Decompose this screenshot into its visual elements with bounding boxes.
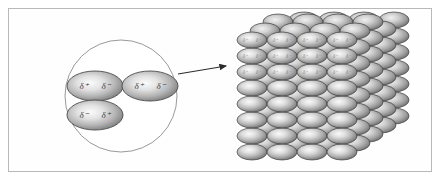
lattice-ellipse — [237, 32, 267, 48]
lattice-molecule — [237, 80, 267, 96]
lattice-molecule: δ⁺δ⁻ — [267, 32, 297, 48]
lattice-molecule: δ⁺δ⁻ — [327, 64, 357, 80]
lattice-ellipse — [297, 48, 327, 64]
lattice-molecule — [267, 80, 297, 96]
molecule-top-right-right-charge: δ⁻ — [156, 81, 166, 91]
lattice-molecule — [327, 80, 357, 96]
lattice-molecule — [237, 96, 267, 112]
lattice-molecule — [267, 128, 297, 144]
lattice-ellipse — [297, 32, 327, 48]
lattice-molecule — [297, 96, 327, 112]
lattice-molecule — [237, 128, 267, 144]
dipole-lattice-figure: δ⁺δ⁻δ⁺δ⁻δ⁺δ⁻δ⁺δ⁻δ⁺δ⁻δ⁺δ⁻δ⁺δ⁻δ⁺δ⁻δ⁺δ⁻δ⁺δ⁻… — [0, 0, 442, 182]
lattice-ellipse — [297, 128, 327, 144]
molecule-top-left-right-charge: δ⁻ — [101, 81, 111, 91]
molecule-top-left-left-charge: δ⁺ — [79, 81, 89, 91]
lattice-ellipse — [267, 112, 297, 128]
lattice-molecule — [237, 112, 267, 128]
lattice-molecule — [267, 112, 297, 128]
lattice-ellipse — [327, 128, 357, 144]
lattice-molecule — [297, 80, 327, 96]
lattice-molecule — [297, 144, 327, 160]
lattice-ellipse — [237, 48, 267, 64]
molecule-top-left-body — [67, 71, 123, 101]
lattice-molecule — [327, 144, 357, 160]
lattice-ellipse — [237, 80, 267, 96]
molecule-bottom-left-right-charge: δ⁺ — [101, 110, 111, 120]
crystal-lattice: δ⁺δ⁻δ⁺δ⁻δ⁺δ⁻δ⁺δ⁻δ⁺δ⁻δ⁺δ⁻δ⁺δ⁻δ⁺δ⁻δ⁺δ⁻δ⁺δ⁻… — [237, 12, 409, 160]
lattice-ellipse — [267, 80, 297, 96]
diagram-canvas: δ⁺δ⁻δ⁺δ⁻δ⁺δ⁻δ⁺δ⁻δ⁺δ⁻δ⁺δ⁻δ⁺δ⁻δ⁺δ⁻δ⁺δ⁻δ⁺δ⁻… — [0, 0, 442, 182]
lattice-ellipse — [327, 64, 357, 80]
lattice-ellipse — [297, 64, 327, 80]
lattice-ellipse — [267, 64, 297, 80]
lattice-molecule — [327, 112, 357, 128]
molecule-bottom-left-body — [67, 100, 123, 130]
lattice-ellipse — [327, 96, 357, 112]
lattice-ellipse — [237, 64, 267, 80]
lattice-molecule — [297, 128, 327, 144]
molecule-top-right-body — [122, 71, 178, 101]
lattice-ellipse — [327, 144, 357, 160]
lattice-ellipse — [297, 80, 327, 96]
lattice-ellipse — [237, 144, 267, 160]
lattice-molecule: δ⁺δ⁻ — [237, 48, 267, 64]
molecule-top-right-left-charge: δ⁺ — [134, 81, 144, 91]
lattice-ellipse — [267, 128, 297, 144]
lattice-ellipse — [267, 144, 297, 160]
lattice-molecule: δ⁺δ⁻ — [327, 32, 357, 48]
lattice-molecule: δ⁺δ⁻ — [267, 64, 297, 80]
lattice-ellipse — [327, 80, 357, 96]
lattice-molecule: δ⁺δ⁻ — [297, 48, 327, 64]
lattice-ellipse — [267, 32, 297, 48]
lattice-ellipse — [297, 144, 327, 160]
lattice-molecule: δ⁺δ⁻ — [297, 64, 327, 80]
lattice-ellipse — [327, 48, 357, 64]
lattice-molecule: δ⁺δ⁻ — [297, 32, 327, 48]
lattice-ellipse — [237, 96, 267, 112]
lattice-molecule — [267, 96, 297, 112]
lattice-molecule — [267, 144, 297, 160]
lattice-molecule — [297, 112, 327, 128]
lattice-ellipse — [297, 96, 327, 112]
molecule-top-right: δ⁺δ⁻ — [122, 71, 178, 101]
lattice-molecule: δ⁺δ⁻ — [237, 32, 267, 48]
lattice-ellipse — [237, 112, 267, 128]
lattice-molecule — [237, 144, 267, 160]
lattice-molecule — [327, 128, 357, 144]
lattice-molecule — [327, 96, 357, 112]
lattice-molecule: δ⁺δ⁻ — [327, 48, 357, 64]
leader-arrow — [178, 66, 226, 74]
lattice-ellipse — [267, 48, 297, 64]
lattice-molecule: δ⁺δ⁻ — [267, 48, 297, 64]
lattice-molecule: δ⁺δ⁻ — [237, 64, 267, 80]
molecule-top-left: δ⁺δ⁻ — [67, 71, 123, 101]
lattice-ellipse — [237, 128, 267, 144]
lattice-ellipse — [267, 96, 297, 112]
molecule-bottom-left-left-charge: δ⁻ — [79, 110, 89, 120]
lattice-ellipse — [327, 32, 357, 48]
lattice-ellipse — [297, 112, 327, 128]
molecule-bottom-left: δ⁻δ⁺ — [67, 100, 123, 130]
lattice-ellipse — [327, 112, 357, 128]
